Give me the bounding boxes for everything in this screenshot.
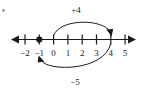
- arc-label-minus-five: −5: [70, 77, 80, 87]
- left-arrowhead-icon: [11, 36, 19, 44]
- tick-labels: −2 −1 0 1 2 3 4 5: [20, 48, 128, 58]
- tick-label-neg2: −2: [20, 48, 30, 58]
- arc-label-plus-four: +4: [71, 5, 81, 15]
- tick-label-3: 3: [94, 48, 99, 58]
- number-line-diagram: −2 −1 0 1 2 3 4 5 +4 −5: [0, 0, 143, 89]
- tick-label-0: 0: [51, 48, 56, 58]
- filled-dot-at-negative-one: [36, 36, 42, 42]
- right-arrowhead-icon: [128, 36, 136, 44]
- arc-plus-four: [54, 22, 110, 35]
- arc-plus-four-arrowhead-icon: [106, 29, 113, 36]
- stray-dot-mark: [2, 9, 5, 12]
- tick-label-1: 1: [66, 48, 71, 58]
- tick-label-5: 5: [123, 48, 128, 58]
- tick-label-4: 4: [109, 48, 114, 58]
- tick-label-2: 2: [80, 48, 85, 58]
